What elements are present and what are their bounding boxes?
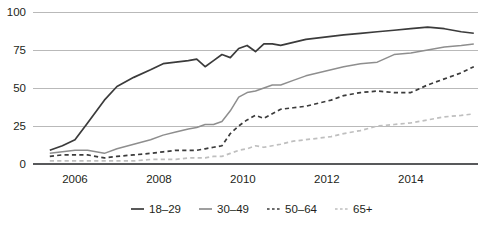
y-tick-label-100: 100 xyxy=(7,6,26,18)
line-chart: 0255075100 20062008201020122014 18–2930–… xyxy=(0,0,480,225)
x-axis-tick-labels: 20062008201020122014 xyxy=(62,173,424,185)
x-tick-label-2012: 2012 xyxy=(314,173,340,185)
x-tick-label-2014: 2014 xyxy=(398,173,424,185)
y-tick-label-75: 75 xyxy=(13,44,26,56)
x-tick-label-2006: 2006 xyxy=(62,173,88,185)
data-series-group xyxy=(50,27,474,161)
legend-label-18-29: 18–29 xyxy=(149,203,181,215)
chart-canvas: 0255075100 20062008201020122014 18–2930–… xyxy=(0,0,480,225)
legend-label-50-64: 50–64 xyxy=(285,203,318,215)
chart-legend: 18–2930–4950–6465+ xyxy=(131,203,373,215)
x-tick-label-2008: 2008 xyxy=(146,173,172,185)
series-line-50-64 xyxy=(50,67,474,158)
legend-label-30-49: 30–49 xyxy=(217,203,249,215)
legend-label-65-: 65+ xyxy=(353,203,373,215)
y-tick-label-50: 50 xyxy=(13,82,26,94)
y-tick-label-25: 25 xyxy=(13,120,26,132)
series-line-65- xyxy=(50,114,474,161)
x-tick-label-2010: 2010 xyxy=(230,173,256,185)
series-line-30-49 xyxy=(50,44,474,153)
y-tick-label-0: 0 xyxy=(20,158,26,170)
y-axis-tick-labels: 0255075100 xyxy=(7,6,26,170)
